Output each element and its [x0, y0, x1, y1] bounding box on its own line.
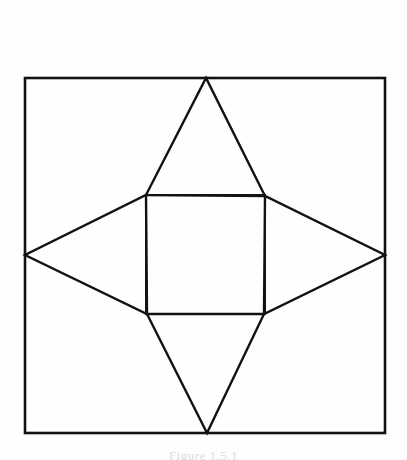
- figure-caption: Figure 1.5.1: [0, 449, 407, 460]
- page-background: [0, 0, 407, 460]
- figure-page: Figure 1.5.1: [0, 0, 407, 460]
- geometric-figure: [0, 0, 407, 460]
